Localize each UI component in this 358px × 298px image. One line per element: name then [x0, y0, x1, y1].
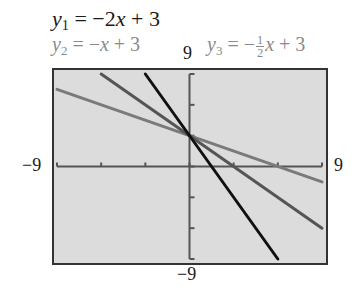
- graph-screen: [0, 0, 358, 298]
